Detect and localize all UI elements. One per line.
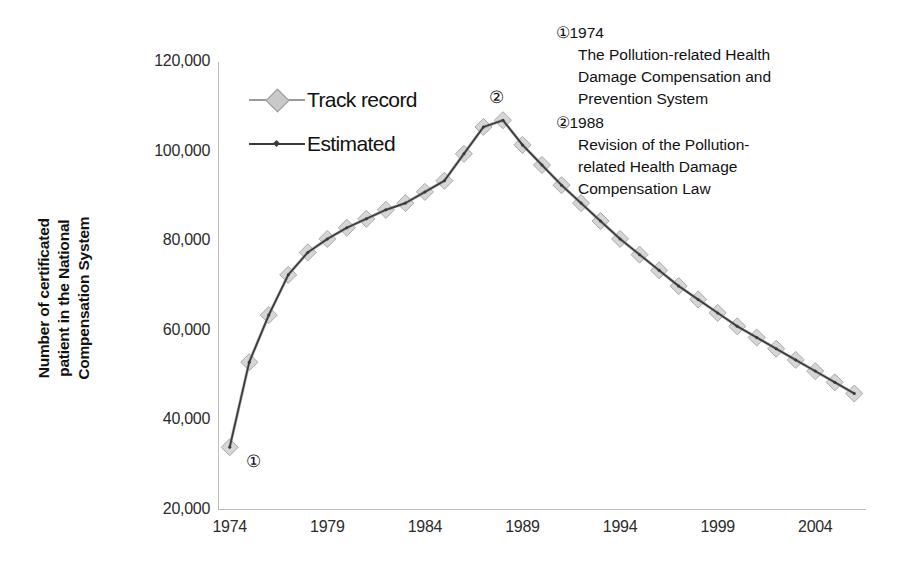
estimated-point-dot [658, 269, 661, 272]
estimated-point-dot [443, 179, 446, 182]
estimated-point-dot [306, 251, 309, 254]
x-tick-label: 1984 [408, 518, 442, 536]
y-axis-line [218, 62, 219, 510]
x-tick-label: 1974 [213, 518, 247, 536]
estimated-point-dot [248, 361, 251, 364]
y-axis-title-line-3: Compensation System [74, 118, 94, 478]
annotation-2-head: ②1988 [556, 112, 886, 134]
legend-label-track-record: Track record [307, 88, 417, 112]
y-axis-tick-labels: 120,000100,00080,00060,00040,00020,000 [140, 62, 210, 510]
legend-label-estimated: Estimated [307, 132, 395, 156]
x-axis-line [218, 509, 866, 510]
estimated-point-dot [833, 381, 836, 384]
estimated-point-dot [794, 358, 797, 361]
annotation-2-line-1: Revision of the Pollution- [578, 134, 886, 156]
x-tick-label: 1989 [505, 518, 539, 536]
estimated-point-dot [599, 220, 602, 223]
annotation-1-line-1: The Pollution-related Health [578, 44, 886, 66]
annotation-panel: ①1974 The Pollution-related Health Damag… [556, 22, 886, 202]
x-tick-label: 1999 [700, 518, 734, 536]
annotation-1: ①1974 The Pollution-related Health Damag… [556, 22, 886, 110]
y-axis-title-line-2: patient in the National [54, 118, 74, 478]
estimated-point-dot [619, 237, 622, 240]
x-axis-tick-labels: 1974197919841989199419992004 [218, 518, 878, 548]
annotation-2-marker-icon: ② [556, 114, 570, 131]
estimated-point-dot [267, 314, 270, 317]
estimated-point-dot [423, 190, 426, 193]
estimated-point-dot [326, 237, 329, 240]
estimated-point-dot [716, 311, 719, 314]
y-axis-title-line-1: Number of certificated [34, 118, 54, 478]
annotation-2-line-3: Compensation Law [578, 178, 886, 200]
y-tick-label: 100,000 [140, 142, 210, 160]
annotation-2-year: 1988 [570, 114, 604, 131]
y-tick-label: 20,000 [140, 500, 210, 518]
chart-figure: Number of certificated patient in the Na… [0, 0, 902, 580]
estimated-point-dot [677, 285, 680, 288]
annotation-1-year: 1974 [570, 24, 604, 41]
estimated-point-dot [755, 336, 758, 339]
annotation-2-line-2: related Health Damage [578, 156, 886, 178]
legend-item-estimated: Estimated [247, 122, 437, 166]
x-tick-label: 2004 [798, 518, 832, 536]
x-tick-label: 1979 [310, 518, 344, 536]
estimated-point-dot [814, 370, 817, 373]
estimated-point-dot [228, 446, 231, 449]
estimated-point-dot [404, 202, 407, 205]
y-tick-label: 60,000 [140, 321, 210, 339]
estimated-point-dot [365, 217, 368, 220]
chart-legend: Track record Estimated [247, 78, 437, 166]
annotation-1-body: The Pollution-related Health Damage Comp… [578, 44, 886, 110]
annotation-1-marker-icon: ① [556, 24, 570, 41]
estimated-point-dot [541, 164, 544, 167]
y-tick-label: 40,000 [140, 410, 210, 428]
point-annotation-marker-icon: ② [489, 87, 504, 108]
y-tick-label: 120,000 [140, 52, 210, 70]
estimated-point-dot [287, 273, 290, 276]
estimated-point-dot [501, 119, 504, 122]
estimated-point-dot [580, 202, 583, 205]
legend-marker-line-icon [247, 134, 307, 154]
estimated-point-dot [521, 143, 524, 146]
estimated-point-dot [462, 152, 465, 155]
annotation-2: ②1988 Revision of the Pollution- related… [556, 112, 886, 200]
estimated-point-dot [853, 392, 856, 395]
x-tick-label: 1994 [603, 518, 637, 536]
estimated-point-dot [384, 208, 387, 211]
legend-item-track-record: Track record [247, 78, 437, 122]
annotation-2-body: Revision of the Pollution- related Healt… [578, 134, 886, 200]
estimated-point-dot [697, 298, 700, 301]
annotation-1-line-2: Damage Compensation and [578, 66, 886, 88]
estimated-point-dot [638, 253, 641, 256]
legend-marker-diamond-icon [247, 90, 307, 110]
estimated-point-dot [345, 226, 348, 229]
estimated-point-dot [482, 125, 485, 128]
estimated-point-dot [775, 347, 778, 350]
annotation-1-line-3: Prevention System [578, 88, 886, 110]
y-axis-title: Number of certificated patient in the Na… [34, 118, 94, 478]
estimated-point-dot [736, 325, 739, 328]
annotation-1-head: ①1974 [556, 22, 886, 44]
y-tick-label: 80,000 [140, 231, 210, 249]
point-annotation-marker-icon: ① [246, 451, 261, 472]
